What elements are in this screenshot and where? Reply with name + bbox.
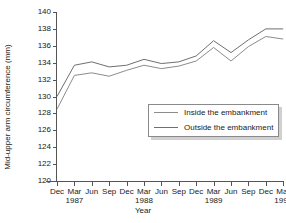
y-axis-tick-label: 128 [38,109,51,117]
x-axis-tick [283,182,284,186]
x-axis-year-label: 1987 [65,196,83,205]
y-axis-tick-group: 120122124126128130132134136138140 [0,0,57,223]
x-axis-tick-label: Mar [137,187,151,196]
x-axis-tick-label: Mar [68,187,82,196]
y-axis-tick-label: 138 [38,25,51,33]
series-line-inside-the-embankment [57,37,283,110]
x-axis-title: Year [0,206,286,215]
x-axis-tick-label: Sep [102,187,116,196]
y-axis-tick-label: 136 [38,42,51,50]
x-axis-tick [74,182,75,186]
x-axis-tick [196,182,197,186]
y-axis-tick-label: 130 [38,93,51,101]
x-axis-tick-label: Jun [225,187,238,196]
x-axis-tick [231,182,232,186]
series-lines [57,12,283,181]
y-axis-tick-label: 132 [38,76,51,84]
x-axis-tick-label: Dec [189,187,203,196]
x-axis-tick-label: Sep [172,187,186,196]
y-axis-tick-label: 134 [38,59,51,67]
x-axis-tick-label: Dec [50,187,64,196]
legend-item-inside: Inside the embankment [149,105,278,120]
x-axis-tick-label: Sep [241,187,255,196]
y-axis-tick-label: 126 [38,126,51,134]
legend-label-inside: Inside the embankment [184,108,267,117]
legend-label-outside: Outside the embankment [184,123,273,132]
x-axis-tick [57,182,58,186]
chart-legend: Inside the embankment Outside the embank… [148,104,279,137]
x-axis-tick-label: Mar [276,187,286,196]
x-axis-year-label: 1989 [205,196,223,205]
x-axis-tick [161,182,162,186]
y-axis-tick-label: 140 [38,8,51,16]
x-axis-tick [109,182,110,186]
y-axis-tick-label: 122 [38,160,51,168]
x-axis-tick-label: Mar [207,187,221,196]
chart-container: Mid-upper arm circumference (mm) 1201221… [0,0,286,223]
x-axis-year-label: 1990 [274,196,286,205]
y-axis-tick-label: 124 [38,143,51,151]
x-axis-year-label: 1988 [135,196,153,205]
series-line-outside-the-embankment [57,29,283,97]
x-axis-tick [179,182,180,186]
x-axis-tick-label: Jun [155,187,168,196]
legend-line-icon-inside [154,112,178,113]
x-axis-tick [127,182,128,186]
plot-area [57,12,283,181]
x-axis-tick [92,182,93,186]
x-axis-tick [248,182,249,186]
x-axis-tick [144,182,145,186]
legend-line-icon-outside [154,127,178,128]
x-axis-tick-label: Dec [259,187,273,196]
x-axis-tick-label: Jun [85,187,98,196]
x-axis-tick-label: Dec [119,187,133,196]
legend-item-outside: Outside the embankment [149,120,278,135]
x-axis-tick [266,182,267,186]
x-axis-tick [214,182,215,186]
